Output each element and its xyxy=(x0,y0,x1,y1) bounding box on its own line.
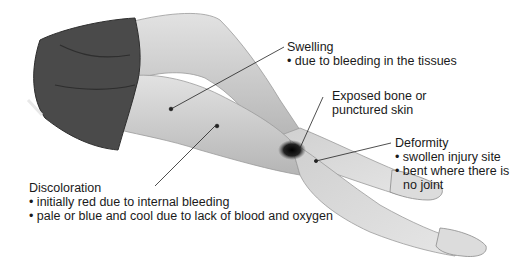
label-deformity: Deformity swollen injury site bent where… xyxy=(395,136,509,192)
label-discoloration: Discoloration initially red due to inter… xyxy=(29,181,333,223)
shorts xyxy=(34,18,140,150)
label-exposed-bone: Exposed bone or punctured skin xyxy=(332,89,427,117)
exposed-title-line1: Exposed bone or xyxy=(332,89,427,103)
discoloration-bullet-2: pale or blue and cool due to lack of blo… xyxy=(29,209,333,223)
deformity-bullet-1: swollen injury site xyxy=(395,150,509,164)
deformity-bullet-2: bent where there is xyxy=(395,164,509,178)
discoloration-title: Discoloration xyxy=(29,181,333,195)
lower-foot xyxy=(436,228,486,257)
exposed-title-line2: punctured skin xyxy=(332,103,427,117)
swelling-bullet: due to bleeding in the tissues xyxy=(287,54,457,68)
wound xyxy=(278,140,306,160)
discoloration-bullet-1: initially red due to internal bleeding xyxy=(29,195,333,209)
deformity-continuation: no joint xyxy=(395,178,509,192)
swelling-title: Swelling xyxy=(287,40,457,54)
fracture-diagram: Swelling due to bleeding in the tissues … xyxy=(0,0,524,258)
label-swelling: Swelling due to bleeding in the tissues xyxy=(287,40,457,68)
deformity-title: Deformity xyxy=(395,136,509,150)
